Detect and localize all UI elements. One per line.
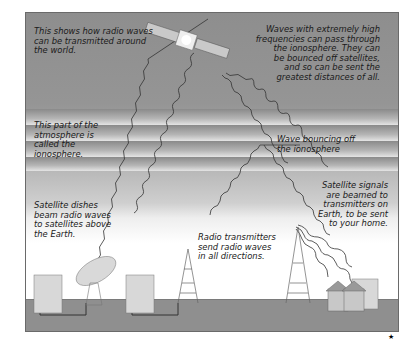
diagram-panel: This shows how radio waves can be transm… bbox=[25, 12, 399, 332]
satellite-icon bbox=[144, 19, 231, 61]
satellite-dish-icon bbox=[71, 250, 120, 305]
intro-label: This shows how radio waves can be transm… bbox=[34, 27, 153, 56]
ionosphere-label: This part of the atmosphere is called th… bbox=[34, 121, 98, 159]
satellite-signals-label: Satellite signals are beamed to transmit… bbox=[318, 181, 388, 229]
radio-transmitters-label: Radio transmitters send radio waves in a… bbox=[198, 233, 276, 262]
footer-star-mark: ★ bbox=[388, 333, 394, 341]
high-frequency-label: Waves with extremely high frequencies ca… bbox=[256, 25, 380, 83]
satellite-dishes-label: Satellite dishes beam radio waves to sat… bbox=[34, 201, 111, 239]
bounce-label: Wave bouncing off the ionosphere bbox=[277, 135, 355, 154]
